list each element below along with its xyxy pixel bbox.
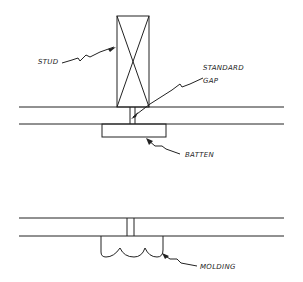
gap-leader-icon — [133, 78, 203, 117]
standard-gap-label-line1: STANDARD — [203, 64, 244, 72]
standard-gap-label-line2: GAP — [203, 77, 219, 85]
molding-detail — [19, 218, 284, 266]
molding-leader-icon — [164, 255, 197, 266]
batten-label: BATTEN — [185, 151, 215, 159]
stud-batten-detail — [19, 16, 284, 154]
stud-leader-icon — [62, 47, 114, 63]
molding — [101, 236, 163, 257]
upper-boards — [19, 107, 284, 124]
lower-boards — [19, 218, 284, 236]
joint-diagram: STUD STANDARD GAP BATTEN MOLDING — [0, 0, 303, 282]
lower-gap — [127, 218, 134, 236]
stud — [117, 16, 149, 107]
batten-leader-icon — [148, 140, 180, 154]
batten — [102, 124, 166, 137]
stud-label: STUD — [38, 58, 59, 66]
molding-label: MOLDING — [200, 263, 236, 271]
